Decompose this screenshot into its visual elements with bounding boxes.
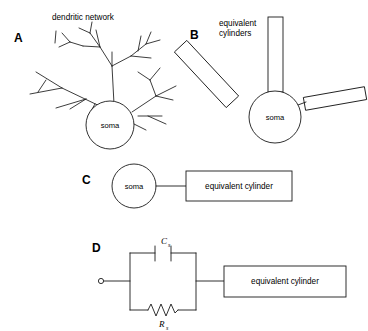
panel-b-letter: B <box>190 28 199 42</box>
panel-c: C soma equivalent cylinder <box>82 164 292 208</box>
panel-b-caption-line1: equivalent <box>219 19 257 28</box>
panel-d-resistor-subscript: s <box>166 325 169 331</box>
panel-c-box-label: equivalent cylinder <box>205 182 273 191</box>
dendrite-branch-center <box>55 22 160 104</box>
panel-b-soma-label: soma <box>266 113 285 122</box>
panel-b-caption-line2: cylinders <box>219 29 251 38</box>
panel-b-cylinder-top <box>268 17 283 92</box>
panel-d-letter: D <box>92 241 101 255</box>
panel-d-capacitor-label: C <box>161 236 168 246</box>
panel-d-resistor-zigzag <box>148 304 178 316</box>
panel-d-box-label: equivalent cylinder <box>251 277 319 286</box>
panel-c-soma-label: soma <box>125 182 144 191</box>
figure-canvas: A dendritic network <box>0 0 368 331</box>
figure-neuron-equivalent-cylinder-model: A dendritic network <box>0 0 368 331</box>
panel-b-cylinder-left <box>174 40 238 107</box>
panel-d-resistor-label: R <box>158 319 165 329</box>
panel-b-cylinder-right <box>303 87 366 111</box>
panel-a: A dendritic network <box>14 13 176 149</box>
panel-a-caption: dendritic network <box>52 13 115 22</box>
panel-a-soma-label: soma <box>101 121 120 130</box>
panel-d: D C s R s equivalent cylinder <box>92 236 346 331</box>
panel-c-letter: C <box>82 173 91 187</box>
panel-b: B equivalent cylinders soma <box>174 17 366 143</box>
panel-d-input-terminal <box>98 278 103 283</box>
panel-a-letter: A <box>14 31 23 45</box>
